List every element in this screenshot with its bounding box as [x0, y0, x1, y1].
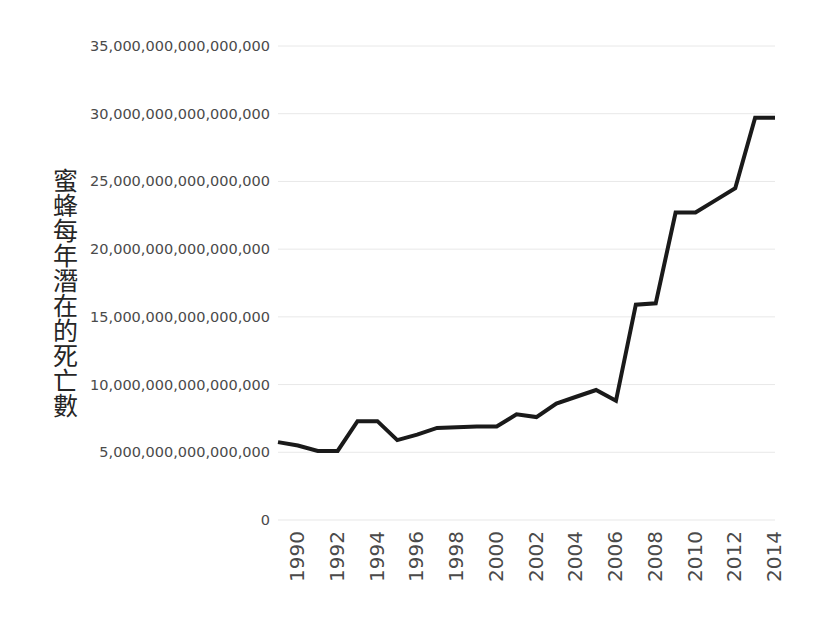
- plot-area: [0, 0, 835, 619]
- data-series-group: [278, 118, 775, 451]
- gridline-group: [278, 46, 775, 520]
- chart-container: 蜜蜂每年潛在的死亡數 05,000,000,000,000,00010,000,…: [0, 0, 835, 619]
- data-line: [278, 118, 775, 451]
